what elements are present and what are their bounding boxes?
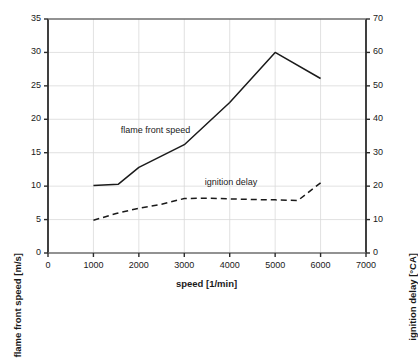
data-series-layer (93, 52, 320, 220)
series-annotation-ignition-delay: ignition delay (205, 177, 258, 187)
series-annotation-flame-front-speed: flame front speed (121, 125, 191, 135)
axis-ticks (44, 19, 370, 257)
gridlines (48, 19, 366, 253)
series-line-ignition-delay (93, 183, 320, 220)
plot-frame (48, 19, 366, 253)
